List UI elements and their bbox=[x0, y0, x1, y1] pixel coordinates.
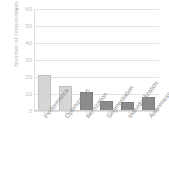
x-axis-category-labels: PerformanceOptimizationItemizationSegmen… bbox=[34, 111, 169, 170]
y-tick-label: 0 bbox=[12, 108, 32, 114]
y-tick-label: 50 bbox=[12, 23, 32, 29]
y-tick-label: 60 bbox=[12, 6, 32, 12]
y-tick-label: 20 bbox=[12, 74, 32, 80]
gridline bbox=[34, 26, 159, 27]
y-tick-label: 10 bbox=[12, 91, 32, 97]
bar-chart: Number of respondents 0102030405060 Perf… bbox=[0, 0, 169, 170]
gridline bbox=[34, 9, 159, 10]
y-axis-line bbox=[34, 9, 35, 111]
gridline bbox=[34, 60, 159, 61]
gridline bbox=[34, 43, 159, 44]
gridline bbox=[34, 77, 159, 78]
y-tick-label: 30 bbox=[12, 57, 32, 63]
y-tick-label: 40 bbox=[12, 40, 32, 46]
y-axis-tick-labels: 0102030405060 bbox=[12, 9, 32, 111]
